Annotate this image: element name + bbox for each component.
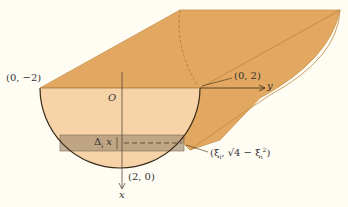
- sample-open: (ξ: [210, 147, 219, 158]
- sample-mid: , √4 − ξ: [221, 147, 260, 158]
- delta-subscript: i: [101, 142, 103, 149]
- solid-figure: [0, 0, 348, 207]
- label-sample-point: (ξi, √4 − ξi2): [210, 146, 270, 160]
- label-x-axis: x: [119, 189, 125, 200]
- label-origin: O: [108, 92, 116, 103]
- label-y-axis: y: [267, 80, 273, 91]
- cross-section: [40, 88, 200, 168]
- label-point-bottom: (2, 0): [128, 171, 155, 182]
- label-slab-thickness: Δi x: [94, 136, 112, 149]
- diagram-canvas: (0, −2) O (0, 2) y (2, 0) x Δi x (ξi, √4…: [0, 0, 348, 207]
- label-point-right: (0, 2): [234, 70, 261, 81]
- label-point-left: (0, −2): [6, 72, 41, 83]
- sample-sub2: i: [261, 153, 263, 160]
- sample-close: ): [266, 147, 270, 158]
- delta-var: x: [106, 136, 112, 147]
